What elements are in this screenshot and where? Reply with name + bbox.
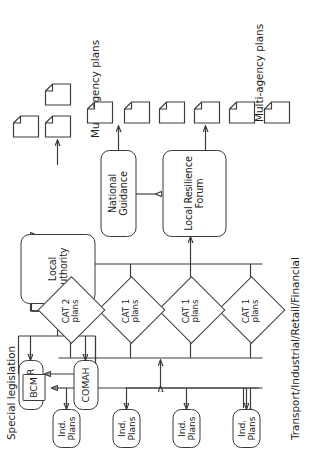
cat3-line2: plans [130,281,139,341]
diagram-rotated-container: Special legislation Transport/Industrial… [0,0,309,456]
document-icon [228,101,255,124]
node-cat-plan-2-label: CAT 1 plans [181,281,200,341]
document-icon [86,101,113,124]
document-icon [123,101,150,124]
node-cat-plan-3-label: CAT 1 plans [121,281,140,341]
document-icon [193,101,220,124]
node-ind-plans-4[interactable]: Ind. Plans [52,409,80,448]
cat2-line2: plans [190,281,199,341]
document-icon [12,115,39,138]
node-local-resilience-forum[interactable]: Local Resilience Forum [162,150,226,237]
cat4-line2: plans [70,281,79,341]
node-comah[interactable]: COMAH [73,360,98,410]
node-ind-plans-1[interactable]: Ind. Plans [232,409,260,448]
flowchart-canvas: Special legislation Transport/Industrial… [0,0,309,456]
caption-special-legislation: Special legislation [4,346,16,440]
caption-transport-industrial: Transport/Industrial/Retail/Financial [288,257,300,440]
node-ind-plans-3[interactable]: Ind. Plans [112,409,140,448]
lrf-line2: Forum [194,179,205,209]
document-icon [44,115,71,138]
local-authority-line1: Local [47,257,58,281]
node-ind-plans-2[interactable]: Ind. Plans [172,409,200,448]
node-national-guidance[interactable]: National Guidance [100,150,136,237]
document-icon [263,101,290,124]
cat1-line2: plans [250,281,259,341]
node-bcm-box[interactable]: BCM [22,374,45,401]
lrf-line1: Local Resilience [183,156,194,231]
node-cat-plan-1-label: CAT 1 plans [241,281,260,341]
node-cat-plan-4-label: CAT 2 plans [61,281,80,341]
document-icon [44,83,71,106]
document-icon [158,101,185,124]
